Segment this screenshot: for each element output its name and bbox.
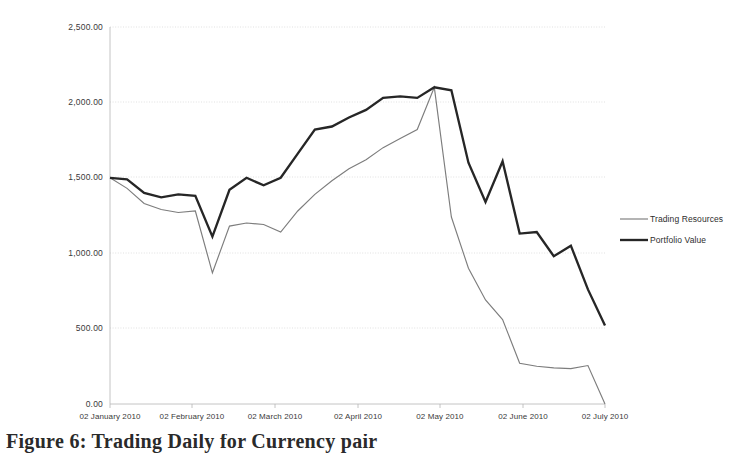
line-chart: 2,500.00 2,000.00 1,500.00 1,000.00 500.… (0, 0, 739, 430)
x-tick-label-june: 02 June 2010 (498, 412, 548, 421)
axes (110, 27, 605, 404)
y-tick-label-1000: 1,000.00 (68, 248, 103, 258)
y-tick-label-2000: 2,000.00 (68, 97, 103, 107)
figure-caption-text: Figure 6: Trading Daily for Currency pai… (0, 434, 739, 451)
legend-label-portfolio-value: Portfolio Value (650, 235, 706, 245)
y-tick-label-500: 500.00 (76, 323, 103, 333)
y-tick-label-2500: 2,500.00 (68, 22, 103, 32)
figure-container: 2,500.00 2,000.00 1,500.00 1,000.00 500.… (0, 0, 739, 455)
figure-caption: Figure 6: Trading Daily for Currency pai… (0, 434, 739, 455)
data-series (110, 87, 605, 404)
legend-item-portfolio-value[interactable]: Portfolio Value (620, 235, 706, 245)
gridlines (110, 27, 605, 328)
x-tickmarks (110, 404, 605, 408)
series-line-portfolio-value (110, 87, 605, 325)
y-tick-label-0: 0.00 (86, 399, 103, 409)
series-line-trading-resources (110, 87, 605, 404)
x-tick-label-april: 02 April 2010 (334, 412, 382, 421)
x-tick-label-february: 02 February 2010 (160, 412, 225, 421)
x-tick-label-may: 02 May 2010 (416, 412, 464, 421)
x-tick-label-july: 02 July 2010 (582, 412, 629, 421)
legend-item-trading-resources[interactable]: Trading Resources (620, 214, 723, 224)
y-tick-label-1500: 1,500.00 (68, 172, 103, 182)
chart-svg: 2,500.00 2,000.00 1,500.00 1,000.00 500.… (0, 0, 739, 430)
x-tick-label-march: 02 March 2010 (248, 412, 303, 421)
y-axis-labels: 2,500.00 2,000.00 1,500.00 1,000.00 500.… (68, 22, 103, 409)
x-tick-label-january: 02 January 2010 (79, 412, 141, 421)
legend-label-trading-resources: Trading Resources (650, 214, 723, 224)
x-axis-labels: 02 January 2010 02 February 2010 02 Marc… (79, 412, 628, 421)
chart-legend: Trading Resources Portfolio Value (620, 214, 723, 245)
